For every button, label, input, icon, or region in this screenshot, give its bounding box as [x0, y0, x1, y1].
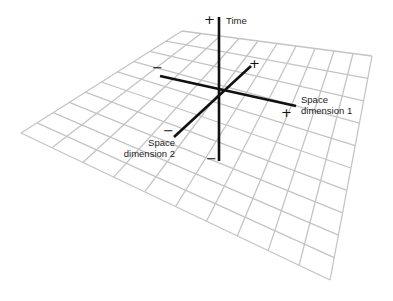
- grid-line-col: [299, 54, 353, 266]
- space1-label-line2: dimension 1: [301, 105, 352, 116]
- space1-plus-sign: +: [281, 106, 292, 119]
- axes-group: [160, 17, 296, 161]
- space2-label-line1: Space: [110, 137, 175, 148]
- space2-plus-sign: +: [249, 57, 260, 70]
- grid-line-col: [330, 56, 372, 280]
- time-plus-sign: +: [204, 13, 215, 26]
- grid-line-col: [21, 31, 182, 133]
- space1-minus-sign: −: [152, 61, 163, 74]
- perspective-grid: [21, 31, 372, 280]
- diagram-canvas: [0, 0, 393, 301]
- time-label: Time: [226, 15, 247, 26]
- space2-label: Space dimension 2: [110, 137, 175, 159]
- space-dimension-2-axis: [174, 66, 251, 137]
- spacetime-diagram: + Time − − + Space dimension 1 − + Space…: [0, 0, 393, 301]
- space1-label-line1: Space: [301, 94, 352, 105]
- space1-label: Space dimension 1: [301, 94, 352, 116]
- space2-minus-sign: −: [163, 124, 174, 137]
- space2-label-line2: dimension 2: [110, 148, 175, 159]
- time-minus-sign: −: [206, 152, 217, 165]
